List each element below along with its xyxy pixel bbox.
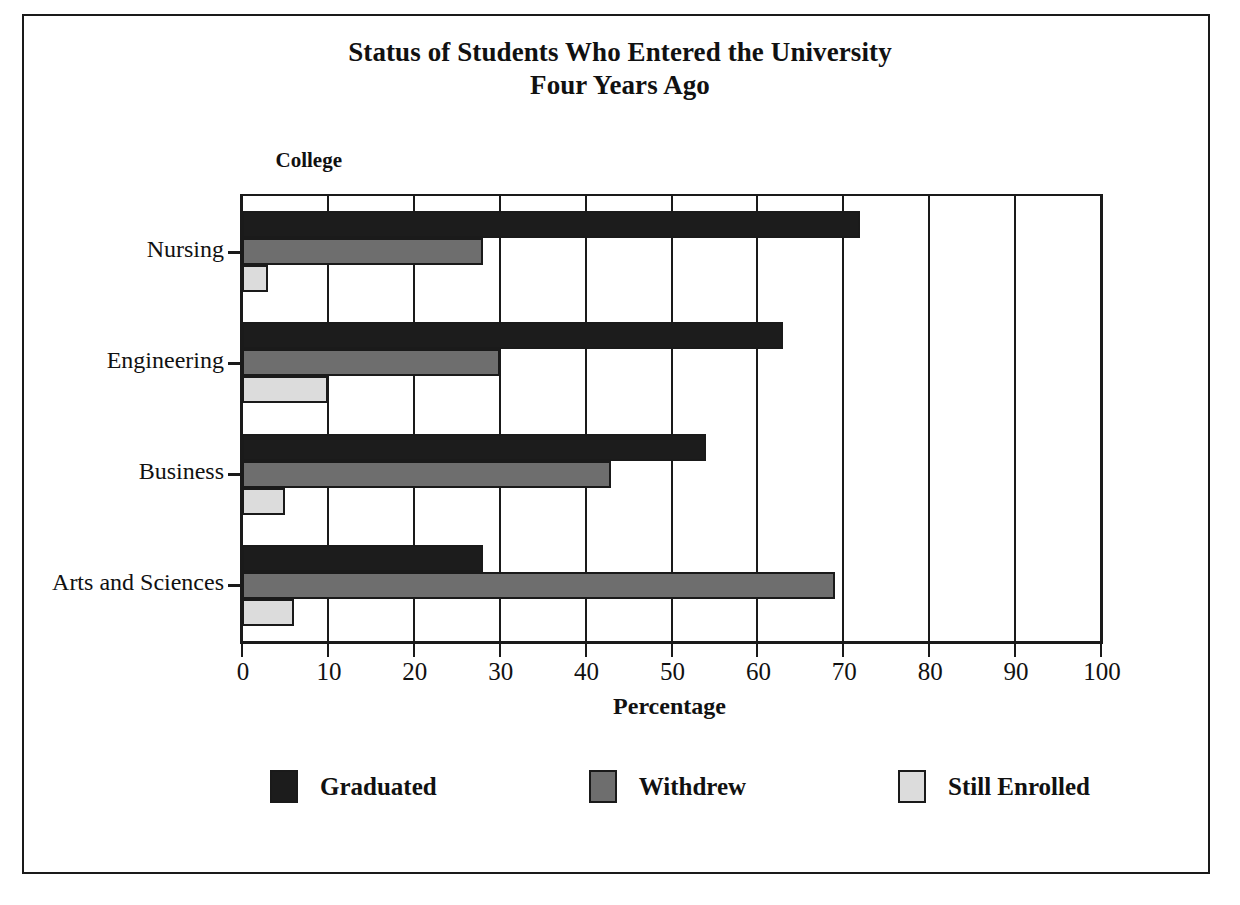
x-tick (671, 644, 673, 657)
x-tick-label: 40 (547, 658, 627, 686)
x-tick (413, 644, 415, 657)
legend-swatch-icon (898, 770, 926, 803)
legend-label: Graduated (320, 773, 437, 801)
bar-withdrew (242, 349, 500, 376)
x-tick (842, 644, 844, 657)
legend-item: Graduated (270, 770, 437, 803)
x-tick (1100, 644, 1102, 657)
bar-withdrew (242, 572, 835, 599)
chart-title: Status of Students Who Entered the Unive… (0, 36, 1240, 102)
chart-title-line-1: Status of Students Who Entered the Unive… (348, 37, 892, 67)
category-label: Arts and Sciences (0, 569, 242, 596)
chart-legend: GraduatedWithdrewStill Enrolled (270, 770, 1090, 803)
x-tick-label: 100 (1062, 658, 1142, 686)
x-tick (1014, 644, 1016, 657)
bar-withdrew (242, 238, 483, 265)
legend-swatch-icon (589, 770, 617, 803)
bar-group: Engineering (242, 307, 1101, 418)
x-tick-label: 0 (203, 658, 283, 686)
bar-withdrew (242, 461, 611, 488)
bar-still-enrolled (242, 488, 285, 515)
x-tick (241, 644, 243, 657)
legend-swatch-icon (270, 770, 298, 803)
x-tick-label: 30 (461, 658, 541, 686)
bar-group: Nursing (242, 196, 1101, 307)
x-tick (928, 644, 930, 657)
bar-graduated (242, 322, 783, 349)
category-label: Business (0, 458, 242, 485)
category-label: Nursing (0, 236, 242, 263)
x-tick-label: 80 (890, 658, 970, 686)
bar-still-enrolled (242, 265, 268, 292)
x-tick-label: 10 (289, 658, 369, 686)
bar-still-enrolled (242, 599, 294, 626)
category-label: Engineering (0, 347, 242, 374)
figure-page: Status of Students Who Entered the Unive… (0, 0, 1240, 905)
x-tick-label: 20 (375, 658, 455, 686)
x-axis-title: Percentage (240, 693, 1099, 720)
category-axis-title: College (152, 148, 342, 173)
x-tick (585, 644, 587, 657)
legend-label: Withdrew (639, 773, 746, 801)
x-tick-label: 70 (804, 658, 884, 686)
legend-label: Still Enrolled (948, 773, 1090, 801)
bar-group: Arts and Sciences (242, 530, 1101, 641)
x-tick-label: 50 (633, 658, 713, 686)
bar-still-enrolled (242, 376, 328, 403)
legend-item: Withdrew (589, 770, 746, 803)
x-tick (756, 644, 758, 657)
x-tick (499, 644, 501, 657)
chart-title-line-2: Four Years Ago (0, 69, 1240, 102)
bar-group: Business (242, 419, 1101, 530)
plot-area: 0102030405060708090100 NursingEngineerin… (240, 194, 1103, 641)
bar-graduated (242, 434, 706, 461)
x-tick-label: 60 (718, 658, 798, 686)
x-tick-label: 90 (976, 658, 1056, 686)
legend-item: Still Enrolled (898, 770, 1090, 803)
bar-graduated (242, 545, 483, 572)
x-tick (327, 644, 329, 657)
bar-graduated (242, 211, 860, 238)
